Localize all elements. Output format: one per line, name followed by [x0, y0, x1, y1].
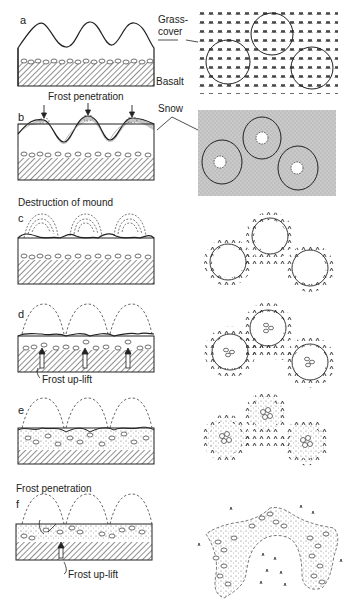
grass-cover-label-line1: Grass-: [158, 15, 188, 25]
panel-c-plan-rings: [208, 216, 330, 288]
panel-e-profile: [18, 398, 154, 464]
panel-f-profile: [16, 494, 152, 574]
panel-label-b: b: [18, 111, 24, 123]
frost-uplift-label-f: Frost up-lift: [68, 570, 118, 580]
panel-c-title: Destruction of mound: [18, 198, 113, 208]
panel-d-profile: [18, 304, 154, 378]
frost-uplift-label-d: Frost up-lift: [42, 375, 92, 385]
panel-f-title: Frost penetration: [16, 484, 92, 494]
grass-cover-label-line2: cover: [158, 27, 182, 37]
basalt-label: Basalt: [156, 77, 184, 87]
panel-f-plan-polygons: [198, 505, 342, 598]
grass-cover-arrow-right: [186, 40, 198, 42]
panel-b-profile: [18, 103, 154, 180]
panel-c-profile: [18, 214, 154, 284]
snow-arrows: [157, 117, 198, 130]
snow-label: Snow: [158, 104, 183, 114]
panel-label-f: f: [16, 498, 19, 510]
panel-b-plan-snow: [198, 110, 336, 196]
panel-b-title: Frost penetration: [48, 92, 124, 102]
panel-label-a: a: [20, 14, 26, 26]
panel-label-c: c: [18, 212, 24, 224]
panel-d-plan-rings: [209, 307, 331, 383]
panel-label-d: d: [18, 308, 24, 320]
panel-a-plan-grass: [198, 12, 338, 94]
panel-label-e: e: [18, 404, 24, 416]
panel-a-profile: [18, 22, 154, 87]
panel-e-plan-patches: [206, 396, 326, 462]
frost-arrows-b: [42, 103, 135, 118]
